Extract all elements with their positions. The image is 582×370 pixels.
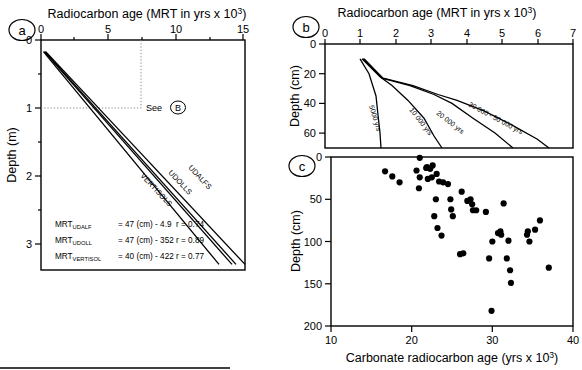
panel-a-equation-2-name: MRT bbox=[55, 252, 73, 261]
panel-a-line-udalfs-edge bbox=[45, 52, 236, 265]
panel-c-xtick-10: 10 bbox=[325, 334, 337, 346]
scatter-point bbox=[434, 225, 440, 231]
panel-a-see-b-annotation: See B bbox=[146, 101, 186, 114]
panel-b-xtick-1: 1 bbox=[357, 27, 363, 39]
panel-a-equation-1-sub: UDOLL bbox=[73, 240, 93, 246]
panel-b-xtick-4: 4 bbox=[464, 27, 470, 39]
panel-a: a Radiocarbon age (MRT in yrs x 103) 0 5… bbox=[5, 6, 249, 270]
panel-b-xtick-5: 5 bbox=[499, 27, 505, 39]
scatter-point bbox=[501, 200, 507, 206]
scatter-point bbox=[498, 232, 504, 238]
panel-a-ytick-3: 3 bbox=[26, 238, 32, 250]
panel-a-regression-lines bbox=[43, 52, 245, 265]
panel-c-plot-frame bbox=[331, 157, 573, 326]
panel-a-line-vertisols bbox=[43, 52, 219, 265]
panel-c-xaxis-title: Carbonate radiocarbon age (yrs x 103) bbox=[346, 350, 559, 365]
scatter-point bbox=[505, 238, 511, 244]
panel-a-xaxis-title: Radiocarbon age (MRT in yrs x 103) bbox=[48, 6, 247, 21]
panel-b-yticks bbox=[319, 44, 325, 133]
panel-b-xtick-3: 3 bbox=[428, 27, 434, 39]
panel-b-xtick-7: 7 bbox=[570, 27, 576, 39]
panel-a-equation-2-sub: VERTISOL bbox=[73, 256, 102, 262]
panel-b-curve-label-10000: 10 000 yrs bbox=[407, 106, 434, 137]
panel-c-ytick-200: 200 bbox=[304, 320, 322, 332]
panel-c-ytick-50: 50 bbox=[310, 193, 322, 205]
panel-b-curve-label-30000-50000: 30 000 - 50 000 yrs bbox=[467, 101, 524, 137]
panel-a-equation-0-name: MRT bbox=[55, 220, 73, 229]
panel-a-see-b-ref: B bbox=[175, 103, 181, 113]
scatter-point bbox=[434, 171, 440, 177]
panel-a-equations: MRTUDALF= 47 (cm) - 4.9r = 0.74 MRTUDOLL… bbox=[55, 220, 204, 262]
panel-c-ytick-150: 150 bbox=[304, 278, 322, 290]
panel-b-ytick-20: 20 bbox=[304, 68, 316, 80]
panel-a-yticks bbox=[35, 40, 41, 244]
scatter-point bbox=[433, 196, 439, 202]
scatter-point bbox=[507, 267, 513, 273]
panel-b-id-label: b bbox=[302, 20, 309, 35]
panel-a-xaxis-title-main: Radiocarbon age (MRT in yrs x 10 bbox=[48, 7, 238, 21]
panel-a-equation-0-body: = 47 (cm) - 4.9 bbox=[118, 220, 172, 229]
scatter-point bbox=[430, 162, 436, 168]
panel-c-xtick-40: 40 bbox=[567, 334, 579, 346]
panel-b-yaxis-title: Depth (cm) bbox=[288, 65, 302, 127]
panel-b: b Radiocarbon age (MRT in yrs x 103) 0 1… bbox=[288, 5, 576, 148]
panel-a-yaxis-title: Depth (m) bbox=[5, 127, 19, 183]
panel-c-xaxis-title-close: ) bbox=[554, 351, 558, 365]
panel-a-equation-1-r: r = 0.89 bbox=[176, 236, 204, 245]
panel-b-ytick-0: 0 bbox=[310, 38, 316, 50]
figure-root: a Radiocarbon age (MRT in yrs x 103) 0 5… bbox=[0, 0, 582, 370]
panel-b-curve-label-5000: 5000 yrs bbox=[367, 104, 383, 132]
panel-b-ytick-60: 60 bbox=[304, 127, 316, 139]
panel-b-xtick-6: 6 bbox=[535, 27, 541, 39]
scatter-point bbox=[447, 196, 453, 202]
scatter-point bbox=[525, 228, 531, 234]
scatter-point bbox=[537, 217, 543, 223]
panel-a-xtick-5: 5 bbox=[105, 23, 111, 35]
panel-b-curve-30000-50000 bbox=[364, 59, 549, 148]
panel-a-ytick-2: 2 bbox=[26, 170, 32, 182]
panel-b-xtick-0: 0 bbox=[322, 27, 328, 39]
panel-c-xticks bbox=[331, 326, 573, 332]
scatter-point bbox=[382, 168, 388, 174]
panel-b-xaxis-title-close: ) bbox=[532, 6, 536, 20]
scatter-point bbox=[546, 265, 552, 271]
scatter-point bbox=[526, 238, 532, 244]
panel-a-see-b-guides bbox=[41, 40, 141, 108]
panel-a-ytick-1: 1 bbox=[26, 102, 32, 114]
panel-a-equation-row-0: MRTUDALF= 47 (cm) - 4.9r = 0.74 bbox=[55, 220, 204, 230]
panel-a-xtick-10: 10 bbox=[170, 23, 182, 35]
scatter-point bbox=[469, 201, 475, 207]
scatter-point bbox=[413, 167, 419, 173]
panel-a-xtick-15: 15 bbox=[237, 23, 249, 35]
panel-c-id-label: c bbox=[299, 159, 306, 174]
panel-c-yaxis-title: Depth (cm) bbox=[289, 210, 303, 272]
panel-b-xaxis-title: Radiocarbon age (MRT in yrs x 103) bbox=[338, 5, 537, 20]
panel-c-xtick-20: 20 bbox=[406, 334, 418, 346]
panel-b-xaxis-title-main: Radiocarbon age (MRT in yrs x 10 bbox=[338, 6, 528, 20]
scatter-point bbox=[416, 185, 422, 191]
panel-b-curve-label-20000: 20 000 yrs bbox=[435, 109, 466, 136]
scatter-point bbox=[473, 207, 479, 213]
scatter-point bbox=[450, 213, 456, 219]
panel-c-xaxis-title-main: Carbonate radiocarbon age (yrs x 10 bbox=[346, 351, 550, 365]
panel-a-equation-row-1: MRTUDOLL= 47 (cm) - 352r = 0.89 bbox=[55, 236, 204, 246]
scatter-point bbox=[389, 173, 395, 179]
scatter-point bbox=[438, 232, 444, 238]
scatter-point bbox=[483, 209, 489, 215]
scatter-point bbox=[460, 250, 466, 256]
panel-a-xaxis-title-close: ) bbox=[242, 7, 246, 21]
scatter-point bbox=[532, 227, 538, 233]
scatter-point bbox=[431, 213, 437, 219]
figure-svg: a Radiocarbon age (MRT in yrs x 103) 0 5… bbox=[0, 0, 582, 370]
panel-a-line-udolls bbox=[44, 52, 232, 265]
panel-a-equation-0-sub: UDALF bbox=[73, 224, 92, 230]
panel-c: c 10 20 30 40 0 50 100 150 200 Depth (cm… bbox=[289, 151, 579, 365]
scatter-point bbox=[448, 206, 454, 212]
panel-a-ytick-0: 0 bbox=[26, 34, 32, 46]
panel-a-equation-0-r: r = 0.74 bbox=[176, 220, 204, 229]
panel-a-equation-row-2: MRTVERTISOL= 40 (cm) - 422r = 0.77 bbox=[55, 252, 204, 262]
panel-a-line-udalfs bbox=[46, 52, 245, 265]
panel-c-ytick-100: 100 bbox=[304, 236, 322, 248]
panel-b-id-badge: b bbox=[293, 17, 319, 38]
panel-c-xtick-30: 30 bbox=[486, 334, 498, 346]
